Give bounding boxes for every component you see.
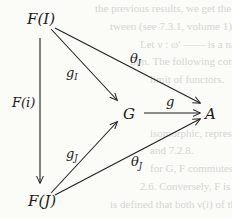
bleed-line: tion. The following conditions are equi — [130, 55, 232, 67]
label-theta-J: θJ — [131, 154, 143, 171]
label-theta-I: θI — [130, 51, 142, 68]
bleed-line: Let ν : ω' —— is a natural transfor — [140, 38, 232, 50]
label-g-I: gI — [66, 65, 78, 82]
bleed-line: for G, F commutes with limits — [150, 162, 232, 174]
node-A: A — [203, 105, 216, 123]
label-g-I-sub: I — [73, 72, 78, 82]
node-F-J: F(J) — [27, 192, 56, 210]
label-theta-J-main: θ — [131, 154, 139, 169]
label-g-I-main: g — [66, 65, 74, 80]
label-theta-I-main: θ — [130, 51, 138, 66]
bleed-line: 2.6. Conversely, F is natural — [140, 180, 232, 192]
arrow-g-I — [51, 29, 117, 100]
label-F-i: F(i) — [11, 95, 35, 110]
bleed-line: isomorphic, representable, natural — [150, 127, 232, 139]
label-g-J-main: g — [66, 146, 74, 161]
node-F-I: F(I) — [26, 10, 55, 28]
commutative-diagram: the previous results, we get the rec twe… — [0, 0, 232, 219]
label-theta-I-sub: I — [137, 58, 142, 68]
label-g-J: gJ — [66, 146, 78, 163]
node-G: G — [123, 105, 135, 123]
arrow-g-J — [51, 122, 117, 193]
bleed-line: is defined that both ν(i) of the — [110, 198, 232, 211]
bleed-line: and 7.2.8. — [150, 144, 194, 156]
bleed-line: tween (see 7.3.1, volume 1). — [110, 20, 232, 33]
bleed-line: the previous results, we get the rec — [95, 2, 232, 14]
diagram-canvas: the previous results, we get the rec twe… — [0, 0, 232, 219]
label-g: g — [166, 94, 174, 109]
